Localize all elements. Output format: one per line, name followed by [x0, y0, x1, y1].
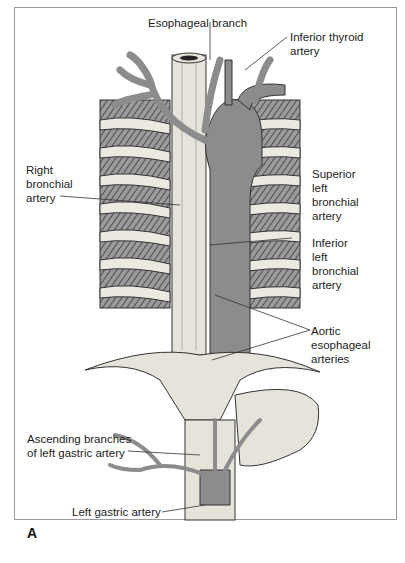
stomach [235, 389, 319, 466]
label-aortic-esophageal-arteries: Aortic esophageal arteries [311, 324, 370, 366]
label-esophageal-branch: Esophageal branch [148, 16, 247, 30]
label-ascending-branches-left-gastric-artery: Ascending branches of left gastric arter… [27, 432, 131, 460]
esophagus [172, 53, 206, 355]
label-inferior-thyroid-artery: Inferior thyroid artery [290, 30, 364, 58]
label-right-bronchial-artery: Right bronchial artery [26, 163, 73, 205]
label-left-gastric-artery: Left gastric artery [72, 505, 161, 519]
label-inferior-left-bronchial-artery: Inferior left bronchial artery [312, 236, 359, 292]
left-rib-cage [100, 100, 170, 308]
panel-letter: A [27, 525, 37, 541]
label-superior-left-bronchial-artery: Superior left bronchial artery [312, 167, 359, 223]
